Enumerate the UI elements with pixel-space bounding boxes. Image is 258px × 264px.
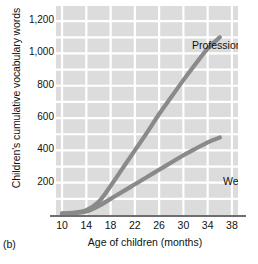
x-axis-title: Age of children (months) [40,236,250,248]
y-tick-label: 600 [10,111,54,122]
y-tick-label: 400 [10,143,54,154]
plot-area: Professional Welfare [56,5,238,215]
series-label-professional: Professional [192,39,238,51]
y-tick-label: 1,200 [10,14,54,25]
y-tick-label: 800 [10,79,54,90]
figure-panel-b: Children's cumulative vocabulary words 2… [0,0,258,264]
x-tick-label: 38 [217,219,247,231]
panel-letter: (b) [3,238,16,250]
y-tick-label: 200 [10,176,54,187]
series-label-welfare: Welfare [223,175,238,187]
x-axis-line [50,215,246,217]
chart-svg [56,5,238,215]
y-tick-label: 1,000 [10,46,54,57]
x-axis-tick-labels: 1014182226303438 [0,219,258,235]
horizontal-gridlines [56,5,238,199]
